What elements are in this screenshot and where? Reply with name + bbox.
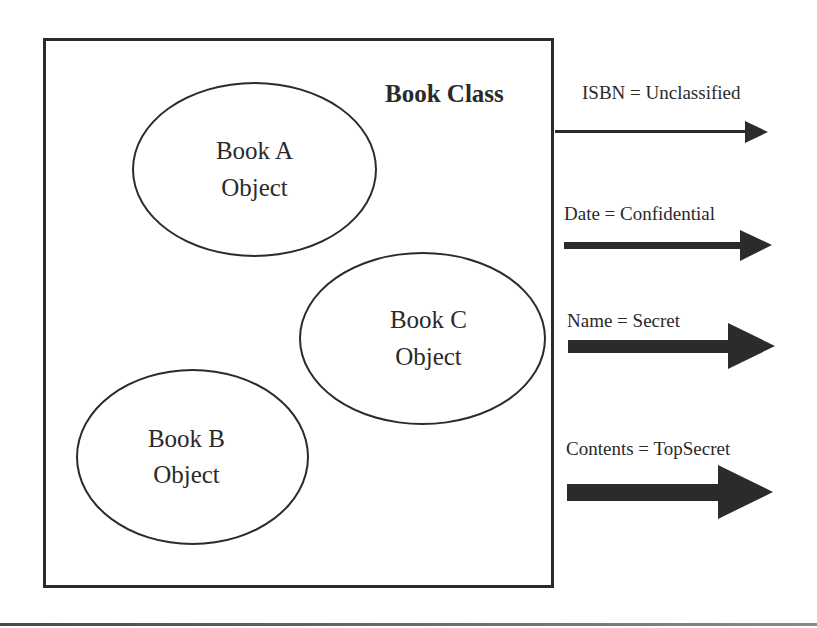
classification-arrows: [0, 0, 817, 628]
name-arrow-icon: [568, 323, 775, 369]
bottom-divider: [0, 623, 817, 626]
contents-arrow-icon: [567, 465, 773, 519]
isbn-arrow-icon: [555, 121, 768, 143]
date-arrow-icon: [564, 230, 772, 261]
book-class-diagram: Book Class Book A Object Book C Object B…: [0, 0, 817, 628]
